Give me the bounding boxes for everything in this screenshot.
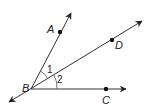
point-c xyxy=(104,87,108,91)
point-a xyxy=(58,30,62,34)
angle-diagram: A B C D 1 2 xyxy=(0,0,151,111)
diagram-svg: A B C D 1 2 xyxy=(0,0,151,111)
label-a: A xyxy=(46,23,54,35)
label-angle-2: 2 xyxy=(57,74,63,85)
label-d: D xyxy=(115,39,123,51)
label-c: C xyxy=(102,94,110,106)
point-d xyxy=(110,38,114,42)
label-b: B xyxy=(22,82,29,94)
label-angle-1: 1 xyxy=(47,64,53,75)
